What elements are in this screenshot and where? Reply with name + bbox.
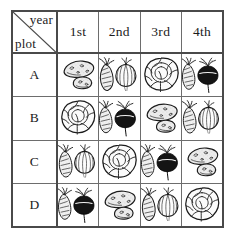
column-axis-label: year [30, 11, 53, 28]
row-header-c: C [12, 140, 57, 183]
potatoes-icon [182, 142, 222, 182]
potatoes-icon [58, 55, 98, 95]
cell-d-4th [182, 184, 224, 227]
cell-b-2nd [99, 97, 141, 140]
crop-rotation-table: year plot 1st 2nd 3rd 4th A [11, 10, 224, 228]
cell-c-4th [182, 140, 224, 183]
cell-d-3rd [140, 184, 182, 227]
cell-c-2nd [99, 140, 141, 183]
cabbage-icon [141, 55, 182, 96]
potatoes-icon [99, 185, 140, 226]
cabbage-icon [58, 98, 98, 138]
cell-d-1st [57, 184, 99, 227]
row-header-d: D [12, 184, 57, 227]
cabbage-icon [99, 142, 140, 183]
cell-a-4th [182, 53, 224, 96]
table-header-row: year plot 1st 2nd 3rd 4th [12, 11, 223, 53]
table-row: C [12, 140, 223, 183]
table-row: A [12, 53, 223, 96]
cell-b-4th [182, 97, 224, 140]
carrot-beet-icon [182, 55, 222, 95]
cell-b-1st [57, 97, 99, 140]
column-header-2nd: 2nd [99, 11, 141, 53]
column-header-1st: 1st [57, 11, 99, 53]
cell-c-3rd [140, 140, 182, 183]
carrot-beet-icon [99, 98, 140, 139]
axis-corner-cell: year plot [12, 11, 57, 53]
carrot-beet-icon [58, 185, 98, 225]
carrot-onion-icon [99, 55, 140, 96]
column-header-3rd: 3rd [140, 11, 182, 53]
row-header-b: B [12, 97, 57, 140]
column-header-4th: 4th [182, 11, 224, 53]
cabbage-icon [182, 185, 222, 225]
cell-b-3rd [140, 97, 182, 140]
carrot-onion-icon [182, 98, 222, 138]
cell-d-2nd [99, 184, 141, 227]
row-axis-label: plot [15, 35, 36, 52]
carrot-beet-icon [141, 142, 182, 183]
cell-c-1st [57, 140, 99, 183]
potatoes-icon [141, 98, 182, 139]
row-header-a: A [12, 53, 57, 96]
table-row: B [12, 97, 223, 140]
carrot-onion-icon [141, 185, 182, 226]
table-row: D [12, 184, 223, 227]
cell-a-2nd [99, 53, 141, 96]
carrot-onion-icon [58, 142, 98, 182]
cell-a-1st [57, 53, 99, 96]
cell-a-3rd [140, 53, 182, 96]
